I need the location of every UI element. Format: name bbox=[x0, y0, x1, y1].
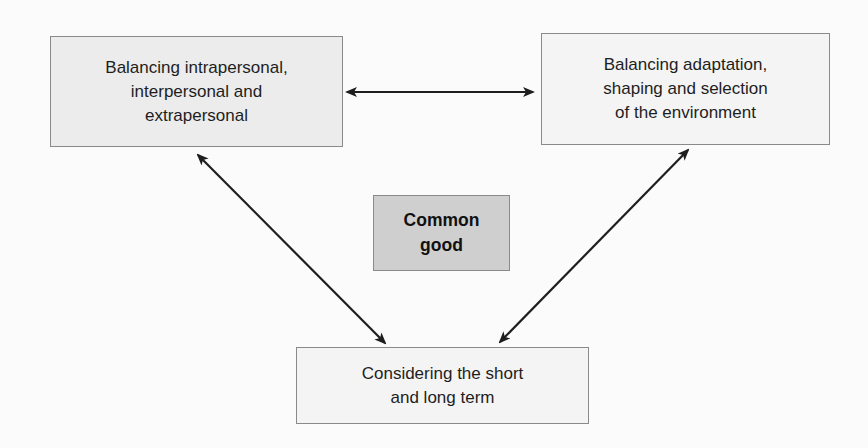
node-label: Balancing adaptation, shaping and select… bbox=[603, 53, 767, 125]
node-common-good: Common good bbox=[373, 195, 510, 271]
node-balancing-environment: Balancing adaptation, shaping and select… bbox=[541, 33, 830, 145]
arrow-personal-shortlong bbox=[198, 155, 385, 343]
node-label: Common good bbox=[404, 208, 480, 258]
node-label: Considering the short and long term bbox=[362, 362, 524, 410]
node-label: Balancing intrapersonal, interpersonal a… bbox=[105, 56, 287, 128]
node-balancing-personal: Balancing intrapersonal, interpersonal a… bbox=[50, 36, 343, 147]
node-short-long-term: Considering the short and long term bbox=[296, 347, 589, 424]
arrow-environment-shortlong bbox=[500, 150, 688, 342]
